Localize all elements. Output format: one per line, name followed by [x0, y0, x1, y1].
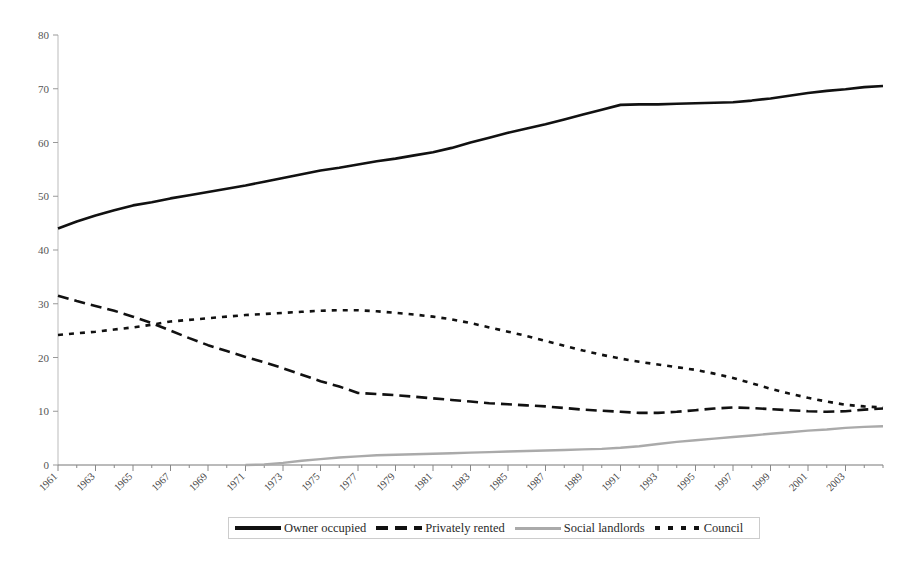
x-tick-label: 1967 — [149, 471, 172, 494]
line-chart: 0102030405060708019611963196519671969197… — [0, 0, 912, 561]
y-tick-label: 10 — [38, 405, 50, 417]
legend-label-privately-rented: Privately rented — [425, 521, 505, 536]
x-tick-label: 1969 — [187, 471, 210, 494]
short-dash-black-line-swatch — [655, 526, 701, 530]
series-line-council — [58, 310, 883, 407]
x-tick-label: 1991 — [599, 471, 622, 494]
series-line-privately-rented — [58, 296, 883, 413]
x-tick-label: 1973 — [262, 471, 285, 494]
x-tick-label: 1987 — [524, 471, 547, 494]
chart-legend: Owner occupied Privately rented Social l… — [228, 517, 760, 539]
y-tick-label: 50 — [38, 190, 50, 202]
legend-item-council: Council — [655, 518, 754, 538]
legend-label-social-landlords: Social landlords — [564, 521, 645, 536]
x-tick-label: 1989 — [562, 471, 585, 494]
long-dash-black-line-swatch — [376, 526, 422, 530]
x-tick-label: 1971 — [224, 471, 247, 494]
y-tick-label: 60 — [38, 137, 50, 149]
plot-area: 0102030405060708019611963196519671969197… — [0, 0, 912, 561]
x-tick-label: 1997 — [712, 471, 735, 494]
x-tick-label: 1983 — [449, 471, 472, 494]
x-tick-label: 1977 — [337, 471, 360, 494]
x-tick-label: 1963 — [74, 471, 97, 494]
solid-gray-line-swatch — [515, 527, 561, 530]
y-tick-label: 0 — [44, 459, 50, 471]
x-tick-label: 1993 — [637, 471, 660, 494]
legend-item-social-landlords: Social landlords — [515, 518, 655, 538]
solid-black-line-swatch — [235, 526, 281, 530]
legend-item-owner-occupied: Owner occupied — [235, 518, 376, 538]
x-tick-label: 1981 — [412, 471, 435, 494]
x-tick-label: 1979 — [374, 471, 397, 494]
legend-label-council: Council — [704, 521, 744, 536]
series-line-social-landlords — [246, 426, 884, 465]
legend-label-owner-occupied: Owner occupied — [284, 521, 366, 536]
series-line-owner-occupied — [58, 86, 883, 228]
x-tick-label: 1975 — [299, 471, 322, 494]
x-tick-label: 2003 — [824, 471, 847, 494]
y-tick-label: 40 — [38, 244, 50, 256]
y-tick-label: 20 — [38, 352, 50, 364]
x-tick-label: 2001 — [787, 471, 810, 494]
y-tick-label: 70 — [38, 83, 50, 95]
x-tick-label: 1985 — [487, 471, 510, 494]
x-tick-label: 1995 — [674, 471, 697, 494]
x-tick-label: 1999 — [749, 471, 772, 494]
y-tick-label: 30 — [38, 298, 50, 310]
x-tick-label: 1961 — [37, 471, 60, 494]
legend-item-privately-rented: Privately rented — [376, 518, 515, 538]
x-tick-label: 1965 — [112, 471, 135, 494]
y-tick-label: 80 — [38, 29, 50, 41]
